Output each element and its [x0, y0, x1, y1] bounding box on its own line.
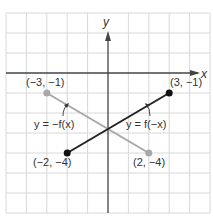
label-point-neg3-neg1: (−3, −1) — [26, 76, 65, 88]
coordinate-plane: x y (−3, −1) (3, −1) (−2, −4) (2, −4) y … — [0, 0, 213, 219]
point-3-neg1 — [166, 90, 173, 97]
point-neg3-neg1 — [43, 90, 50, 97]
label-point-2-neg4: (2, −4) — [133, 156, 165, 168]
y-axis-label: y — [102, 15, 110, 29]
label-point-3-neg1: (3, −1) — [170, 76, 202, 88]
label-f-neg-x: y = f(−x) — [126, 118, 166, 130]
label-point-neg2-neg4: (−2, −4) — [33, 156, 72, 168]
label-neg-f-x: y = −f(x) — [34, 118, 74, 130]
